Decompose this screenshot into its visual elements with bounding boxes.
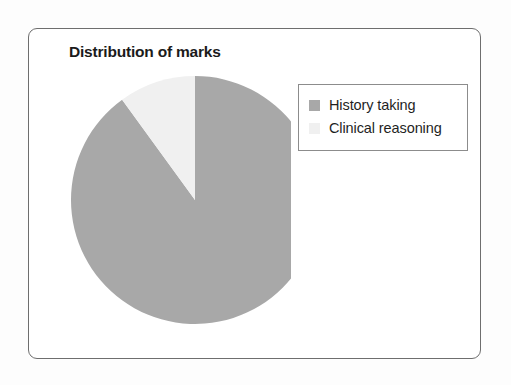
page-title: Distribution of marks	[69, 43, 221, 61]
legend-label-history-taking: History taking	[329, 98, 415, 113]
chart-legend: History taking Clinical reasoning	[298, 84, 468, 151]
pie-chart-svg	[39, 72, 291, 326]
legend-label-clinical-reasoning: Clinical reasoning	[329, 121, 442, 136]
pie-chart	[39, 72, 291, 326]
legend-item-clinical-reasoning[interactable]: Clinical reasoning	[309, 117, 457, 140]
legend-swatch-history-taking	[309, 100, 320, 111]
legend-item-history-taking[interactable]: History taking	[309, 94, 457, 117]
figure-card: Distribution of marks History taking Cli…	[28, 28, 481, 359]
legend-swatch-clinical-reasoning	[309, 123, 320, 134]
